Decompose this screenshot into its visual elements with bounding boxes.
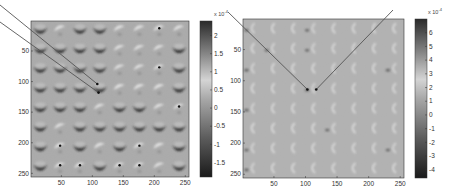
blob-shadow [157,111,161,114]
colorbar-tick-label: 1.5 [214,50,223,57]
annotation-tip [306,88,309,91]
blob-halo [55,44,65,48]
blob-shadow [137,33,141,36]
colorbar-tick-label: -1 [214,141,220,148]
panel-left: 50100150200250 50100150200250 [0,5,191,186]
y-tick-label: 250 [230,170,241,177]
blob-dot [59,164,61,166]
noise-overlay-right [243,19,404,178]
x-tick-label: 100 [87,179,98,186]
panel-right: 50100150200250 50100150200250 [228,10,406,187]
blob-halo [174,44,184,48]
blob-halo [35,122,45,126]
blob-faint-dark [244,109,248,112]
blob-halo [35,24,45,28]
blob-halo [75,44,85,48]
blob-halo [75,142,85,146]
x-tick-label: 200 [149,179,160,186]
blob-dot [138,164,140,166]
blob-halo [75,83,85,87]
blob-halo [95,161,105,165]
blob-shadow [58,33,62,36]
blob-shadow [118,52,122,55]
y-tick-label: 100 [230,77,241,84]
colorbar-tick-label: 0.5 [214,86,223,93]
y-tick-label: 200 [18,139,29,146]
blob-halo [174,63,184,67]
blob-halo [174,161,184,165]
blob-halo [154,122,164,126]
blob-dot [79,164,81,166]
blob-halo [75,24,85,28]
blob-faint-dark [305,29,309,32]
blob-shadow [58,170,62,173]
figure: 50100150200250 50100150200250 x 10-4 21.… [0,0,455,193]
colorbar-tick-label: 1 [214,68,218,75]
blob-halo [95,44,105,48]
y-tick-label: 150 [18,108,29,115]
blob-shadow [157,170,161,173]
colorbar-tick-label: 0 [429,111,433,118]
blob-shadow [118,91,122,94]
blob-faint-dark [386,149,390,152]
blob-shadow [98,150,102,153]
colorbar-tick-label: 4 [429,56,433,63]
blob-shadow [118,170,122,173]
y-tick-label: 200 [230,139,241,146]
blob-shadow [157,150,161,153]
blob-halo [115,142,125,146]
blob-halo [35,44,45,48]
blob-halo [134,102,144,106]
x-tick-label: 150 [118,179,129,186]
blob-halo [134,122,144,126]
blob-shadow [58,131,62,134]
blob-halo [35,161,45,165]
annotation-tip [96,83,99,86]
colorbar-tick-label: -3 [429,152,435,159]
colorbar-tick-label: 1 [429,97,433,104]
blob-halo [115,102,125,106]
blob-dot [158,66,160,68]
colorbar-left-ticks: 21.510.50-0.5-1-1.5 [210,32,226,166]
y-tick-label: 100 [18,78,29,85]
blob-shadow [118,72,122,75]
blob-shadow [157,52,161,55]
colorbar-left: x 10-4 21.510.50-0.5-1-1.5 [200,9,229,177]
y-tick-label: 150 [230,108,241,115]
blob-faint-dark [244,69,248,72]
colorbar-left-exponent: x 10-4 [214,9,229,17]
blob-faint-dark [244,169,248,172]
x-tick-label: 100 [300,180,311,187]
blob-faint-dark [386,69,390,72]
colorbar-tick-label: 2 [214,32,218,39]
x-tick-label: 150 [332,180,343,187]
blob-shadow [58,150,62,153]
blob-halo [55,83,65,87]
blob-halo [95,122,105,126]
blob-halo [55,102,65,106]
blob-halo [174,83,184,87]
blob-dot [138,144,140,146]
blob-dot [178,105,180,107]
colorbar-tick-label: 3 [429,70,433,77]
blob-shadow [157,72,161,75]
blob-shadow [177,33,181,36]
y-tick-label: 50 [22,47,30,54]
colorbar-tick-label: -4 [429,166,435,173]
blob-shadow [157,91,161,94]
blob-halo [35,142,45,146]
blob-shadow [137,52,141,55]
colorbar-tick-label: 0 [214,104,218,111]
blob-halo [95,24,105,28]
colorbar-right-exponent: x 10-4 [428,7,443,15]
blob-dot [59,144,61,146]
blob-halo [174,122,184,126]
colorbar-tick-label: -1.5 [214,159,226,166]
colorbar-tick-label: -0.5 [214,122,226,129]
blob-shadow [118,33,122,36]
noise-overlay-left [31,21,189,177]
blob-halo [75,102,85,106]
blob-shadow [137,150,141,153]
blob-shadow [157,33,161,36]
colorbar-tick-label: 6 [429,29,433,36]
